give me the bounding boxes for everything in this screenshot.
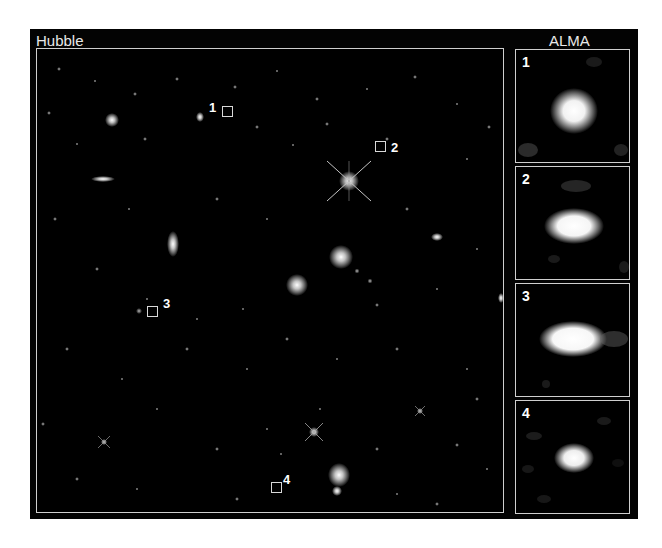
hubble-image [36,48,504,513]
alma-panel-1: 1 [515,49,630,163]
alma-source-3 [516,284,629,396]
marker-box-2 [375,141,386,152]
alma-label-1: 1 [522,54,530,70]
marker-box-4 [271,482,282,493]
marker-box-1 [222,106,233,117]
marker-box-3 [147,306,158,317]
alma-source-1 [516,50,629,162]
alma-panel-3: 3 [515,283,630,397]
marker-label-1: 1 [209,101,216,114]
hubble-deep-field [37,49,503,512]
alma-title: ALMA [549,33,590,48]
marker-label-4: 4 [283,473,290,486]
alma-source-4 [516,401,629,513]
alma-label-3: 3 [522,288,530,304]
alma-panel-2: 2 [515,166,630,280]
alma-source-2 [516,167,629,279]
hubble-title: Hubble [36,33,84,48]
marker-label-3: 3 [163,297,170,310]
alma-label-2: 2 [522,171,530,187]
alma-label-4: 4 [522,405,530,421]
marker-label-2: 2 [391,141,398,154]
alma-panel-4: 4 [515,400,630,514]
